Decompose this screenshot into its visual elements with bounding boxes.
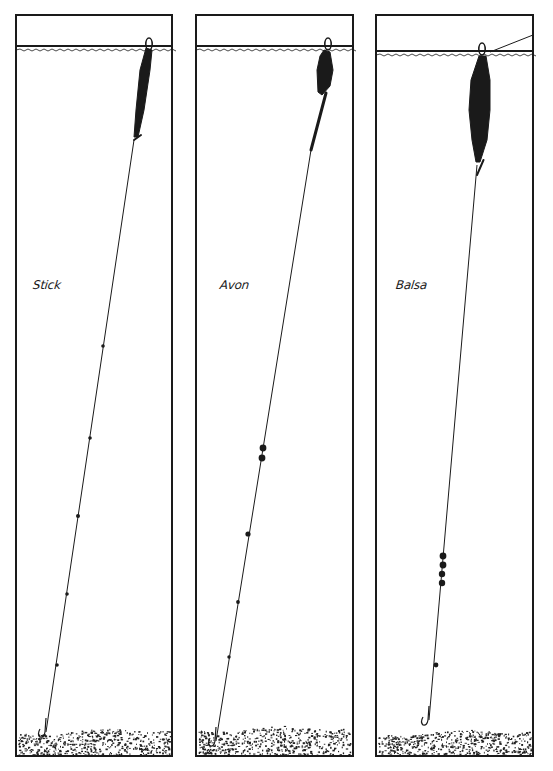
split-shot (245, 531, 250, 536)
float-stick-body (134, 48, 152, 137)
label-balsa: Balsa (395, 278, 428, 292)
water-ripple (196, 49, 356, 51)
split-shot (101, 344, 105, 348)
float-stem (311, 93, 326, 150)
panel-stick (16, 15, 176, 757)
split-shot (88, 436, 92, 440)
diagram-canvas (0, 0, 553, 771)
hook-icon (422, 706, 430, 725)
panel-frame (376, 15, 533, 756)
panel-avon (196, 15, 356, 757)
gravel-bed (199, 726, 352, 757)
panel-frame (16, 15, 172, 756)
drift-line (490, 35, 533, 52)
hook-icon (39, 718, 47, 737)
float-tip-icon (325, 38, 331, 50)
float-tip-icon (479, 43, 485, 55)
split-shot (440, 562, 447, 569)
split-shot (65, 592, 69, 596)
water-ripple (376, 54, 536, 56)
label-avon: Avon (219, 278, 250, 292)
split-shot (260, 445, 267, 452)
split-shot (259, 455, 266, 462)
split-shot (434, 663, 439, 668)
panel-frame (196, 15, 353, 756)
split-shot (236, 600, 240, 604)
float-tip-icon (146, 38, 152, 50)
split-shot (227, 655, 230, 658)
gravel-bed (18, 729, 171, 757)
fishing-line (46, 140, 134, 732)
fishing-line (429, 165, 477, 720)
split-shot (76, 514, 80, 518)
split-shot (55, 663, 59, 667)
split-shot (440, 553, 447, 560)
split-shot (439, 580, 445, 586)
float-rig-diagram: Stick Avon Balsa (0, 0, 553, 771)
float-avon-body (317, 50, 333, 95)
label-stick: Stick (32, 278, 61, 292)
panel-balsa (376, 15, 536, 757)
float-balsa-body (469, 56, 490, 162)
gravel-bed (378, 730, 532, 757)
split-shot (439, 571, 445, 577)
